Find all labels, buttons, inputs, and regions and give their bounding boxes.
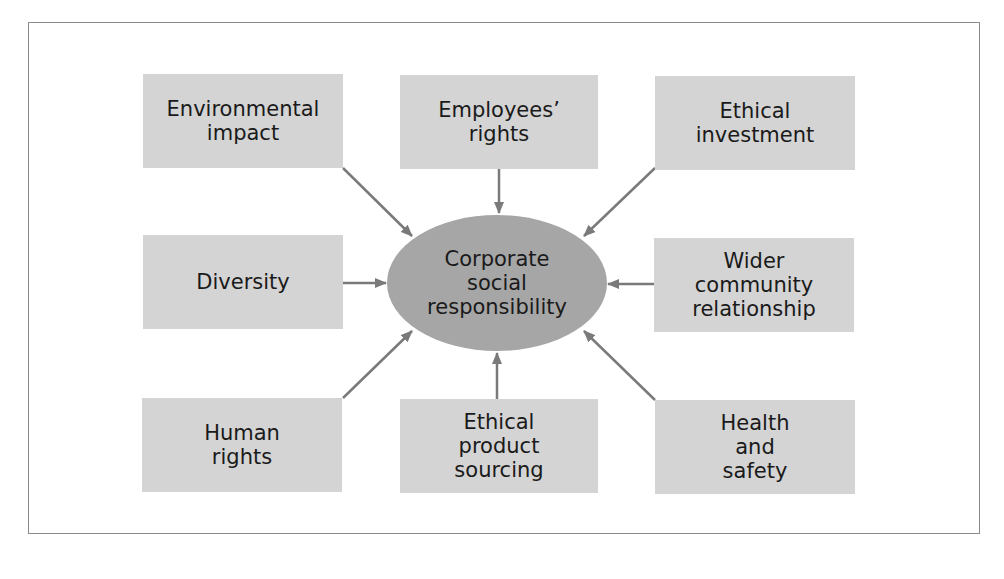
node-diversity: Diversity: [143, 235, 343, 329]
node-health-and-safety: Health and safety: [655, 400, 855, 494]
node-environmental-impact: Environmental impact: [143, 74, 343, 168]
node-employees-rights: Employees’ rights: [400, 75, 598, 169]
node-ethical-product-sourcing: Ethical product sourcing: [400, 399, 598, 493]
center-node-label: Corporate social responsibility: [387, 215, 607, 351]
node-wider-community-relationship: Wider community relationship: [654, 238, 854, 332]
node-ethical-investment: Ethical investment: [655, 76, 855, 170]
node-human-rights: Human rights: [142, 398, 342, 492]
